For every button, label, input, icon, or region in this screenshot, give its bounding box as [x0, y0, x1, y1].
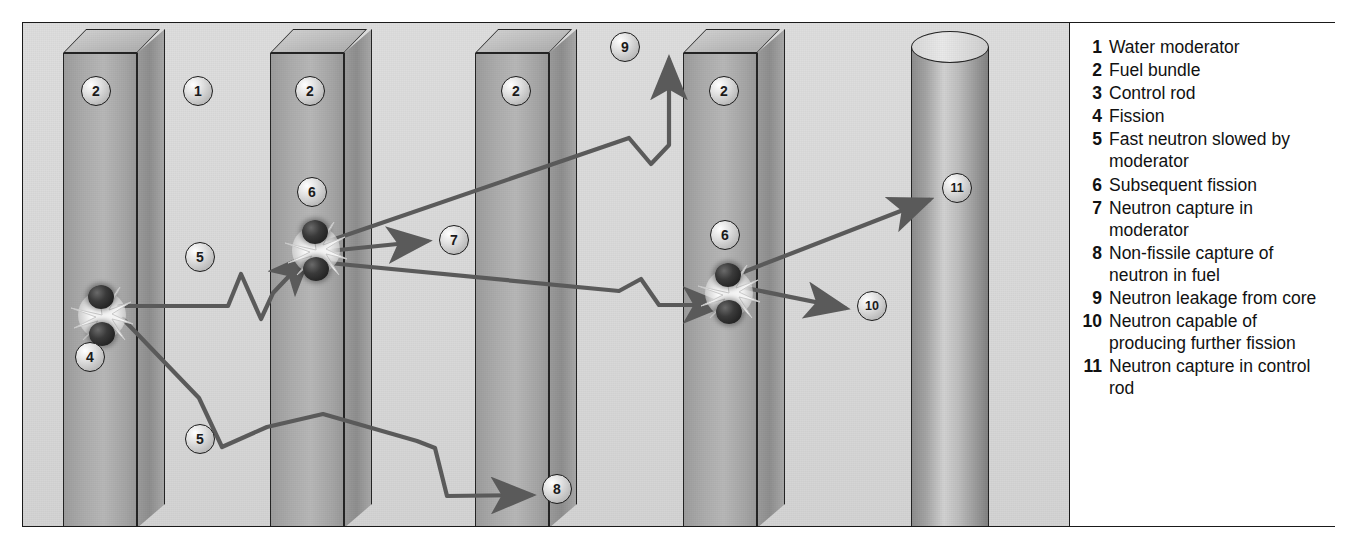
- marker-fast-neutron-slowed-upper[interactable]: 5: [185, 242, 215, 272]
- neutron-path-4-to-8: [123, 319, 531, 496]
- fission-fragment: [716, 300, 742, 324]
- legend-item: 10 Neutron capable of producing further …: [1076, 310, 1330, 354]
- legend-item: 6 Subsequent fission: [1076, 174, 1330, 196]
- legend-item: 5 Fast neutron slowed by moderator: [1076, 128, 1330, 172]
- legend-label: Non-fissile capture of neutron in fuel: [1109, 242, 1330, 286]
- legend-number: 1: [1076, 36, 1109, 58]
- legend-item: 4 Fission: [1076, 105, 1330, 127]
- neutron-path-6-to-6: [329, 263, 723, 305]
- marker-fuel-bundle-4[interactable]: 2: [709, 76, 739, 106]
- marker-non-fissile-capture[interactable]: 8: [542, 474, 572, 504]
- fission-burst-secondary-1: [279, 213, 353, 287]
- marker-neutron-further-fission[interactable]: 10: [857, 291, 887, 321]
- legend-number: 6: [1076, 174, 1109, 196]
- fission-fragment: [303, 257, 329, 281]
- marker-water-moderator[interactable]: 1: [183, 76, 213, 106]
- neutron-path-layer: [23, 23, 1069, 526]
- legend-label: Neutron leakage from core: [1109, 287, 1316, 309]
- legend-item: 3 Control rod: [1076, 82, 1330, 104]
- neutron-path-6-to-11: [741, 200, 929, 273]
- legend-item: 1 Water moderator: [1076, 36, 1330, 58]
- marker-neutron-leakage[interactable]: 9: [610, 32, 640, 62]
- marker-neutron-capture-control-rod[interactable]: 11: [942, 173, 972, 203]
- legend-label: Control rod: [1109, 82, 1196, 104]
- legend-panel: 1 Water moderator 2 Fuel bundle 3 Contro…: [1069, 23, 1336, 526]
- legend-number: 10: [1076, 310, 1109, 332]
- legend-number: 8: [1076, 242, 1109, 264]
- reactor-core-diagram: 2 1 2 2 2 4 5 5 6 6 7 8 9 10 11: [23, 23, 1069, 526]
- diagram-frame: 2 1 2 2 2 4 5 5 6 6 7 8 9 10 11 1 Water …: [22, 22, 1335, 527]
- legend-number: 7: [1076, 197, 1109, 219]
- legend-label: Fast neutron slowed by moderator: [1109, 128, 1330, 172]
- legend-number: 9: [1076, 287, 1109, 309]
- legend-number: 11: [1076, 355, 1109, 377]
- legend-label: Neutron capture in moderator: [1109, 197, 1330, 241]
- legend-label: Neutron capable of producing further fis…: [1109, 310, 1330, 354]
- marker-fuel-bundle-1[interactable]: 2: [81, 76, 111, 106]
- legend-item: 7 Neutron capture in moderator: [1076, 197, 1330, 241]
- legend-label: Subsequent fission: [1109, 174, 1257, 196]
- marker-subsequent-fission-1[interactable]: 6: [297, 177, 327, 207]
- marker-fuel-bundle-2[interactable]: 2: [295, 76, 325, 106]
- marker-fast-neutron-slowed-lower[interactable]: 5: [185, 424, 215, 454]
- legend-label: Water moderator: [1109, 36, 1240, 58]
- marker-neutron-capture-moderator[interactable]: 7: [439, 225, 469, 255]
- nuclear-reactor-diagram-page: 2 1 2 2 2 4 5 5 6 6 7 8 9 10 11 1 Water …: [0, 0, 1359, 551]
- marker-fuel-bundle-3[interactable]: 2: [501, 76, 531, 106]
- legend-label: Fission: [1109, 105, 1164, 127]
- fission-fragment: [715, 263, 741, 287]
- legend-item: 2 Fuel bundle: [1076, 59, 1330, 81]
- legend-number: 3: [1076, 82, 1109, 104]
- fission-burst-secondary-2: [692, 256, 766, 330]
- marker-fission[interactable]: 4: [75, 342, 105, 372]
- legend-item: 9 Neutron leakage from core: [1076, 287, 1330, 309]
- fission-burst-primary: [65, 278, 139, 352]
- legend-label: Neutron capture in control rod: [1109, 355, 1330, 399]
- neutron-path-6-to-9: [329, 60, 669, 241]
- fission-fragment: [88, 285, 114, 309]
- legend-number: 4: [1076, 105, 1109, 127]
- marker-subsequent-fission-2[interactable]: 6: [710, 220, 740, 250]
- legend-item: 11 Neutron capture in control rod: [1076, 355, 1330, 399]
- legend-item: 8 Non-fissile capture of neutron in fuel: [1076, 242, 1330, 286]
- fission-fragment: [302, 220, 328, 244]
- legend-number: 5: [1076, 128, 1109, 150]
- legend-label: Fuel bundle: [1109, 59, 1200, 81]
- legend-number: 2: [1076, 59, 1109, 81]
